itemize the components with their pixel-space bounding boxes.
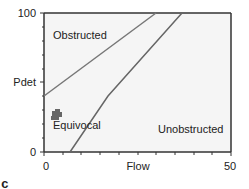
nomogram-chart: 100 Pdet 0 0 Flow 50 Obstructed Equivoca… [0,0,249,189]
y-axis-label: Pdet [13,76,36,88]
x-tick-label-right: 50 [224,160,236,172]
y-tick-label-top: 100 [18,7,36,19]
region-label-obstructed: Obstructed [53,29,107,41]
region-label-unobstructed: Unobstructed [158,123,223,135]
y-tick-label-bottom: 0 [30,146,36,158]
x-axis-label: Flow [126,160,149,172]
x-tick-label-left: 0 [43,160,49,172]
region-label-equivocal: Equivocal [53,119,101,131]
panel-label: c [1,177,9,189]
